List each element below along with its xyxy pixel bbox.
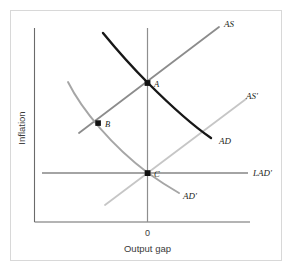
point-label-c: C <box>154 169 160 179</box>
point-marker-a <box>145 80 151 86</box>
figure-frame <box>11 11 282 261</box>
x-axis-label: Output gap <box>124 243 171 254</box>
point-marker-c <box>145 170 151 176</box>
y-axis-label: Inflation <box>16 111 27 144</box>
point-marker-b <box>95 120 101 126</box>
point-label-a: A <box>153 79 160 89</box>
point-label-b: B <box>105 119 110 129</box>
curve-label-as-prime: AS' <box>245 91 259 101</box>
curve-label-as: AS <box>223 19 234 29</box>
chart-canvas: AS AS' AD AD' LAD' A B C 0 Output gap In… <box>0 0 293 262</box>
curve-label-lad-prime: LAD' <box>252 168 273 178</box>
curve-label-ad-prime: AD' <box>182 191 198 201</box>
ad-as-diagram-figure: AS AS' AD AD' LAD' A B C 0 Output gap In… <box>0 0 293 262</box>
x-axis-origin-tick: 0 <box>145 228 150 238</box>
curve-label-ad: AD <box>218 136 231 146</box>
